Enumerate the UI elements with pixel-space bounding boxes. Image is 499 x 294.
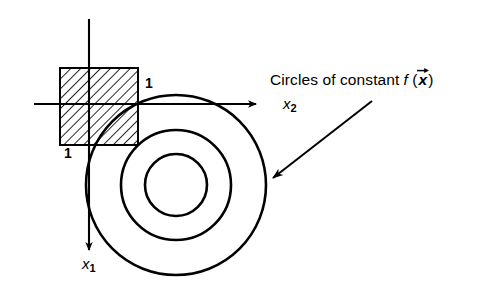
axis-label-x2-subscript: 2: [291, 102, 297, 114]
axis-label-x1-subscript: 1: [90, 262, 96, 274]
tick-x2-one: 1: [145, 76, 153, 90]
annotation-vector-x: x: [418, 72, 429, 88]
contour-circle-middle: [121, 130, 231, 240]
tick-x1-one: 1: [64, 146, 72, 160]
axis-label-x2-base: x: [283, 95, 291, 112]
annotation-caption-prefix: Circles of constant: [270, 71, 399, 88]
hatched-unit-square: [60, 68, 138, 145]
annotation-vector-x-letter: x: [419, 71, 428, 88]
vector-arrow-icon: [417, 67, 429, 73]
annotation-paren-close: ): [428, 71, 433, 88]
annotation-caption: Circles of constantf (x): [270, 72, 434, 88]
contour-circle-outer: [86, 95, 266, 275]
figure-container: x2 x1 1 1 Circles of constantf (x): [0, 0, 499, 294]
figure-drawing: [0, 0, 499, 294]
constant-f-circles-group: [86, 95, 266, 275]
hatched-square-group: [60, 68, 138, 145]
axis-label-x1: x1: [82, 256, 96, 274]
contour-circle-inner: [145, 154, 207, 216]
axis-label-x2: x2: [283, 96, 297, 114]
annotation-function-symbol: f: [403, 71, 407, 88]
axis-label-x1-base: x: [82, 255, 90, 272]
